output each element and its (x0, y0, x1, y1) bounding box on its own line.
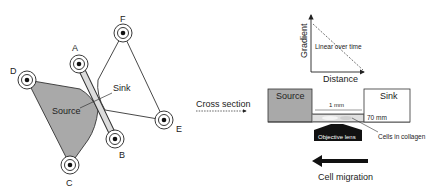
width-label: 1 mm (329, 102, 344, 108)
electrode-C (61, 156, 79, 174)
electrode-A (70, 55, 88, 73)
electrode-label-F: F (120, 14, 126, 24)
electrode-B (106, 130, 124, 148)
depth-label: 70 mm (367, 114, 387, 121)
x-axis-label: Distance (323, 74, 358, 84)
cell-migration-label: Cell migration (318, 172, 373, 182)
electrode-label-E: E (176, 124, 182, 134)
gradient-graph: Gradient Distance Linear over time (299, 15, 364, 84)
electrode-label-A: A (72, 43, 78, 53)
electrode-label-B: B (119, 150, 125, 160)
source-label: Source (52, 106, 81, 116)
cells-label: Cells in collagen (378, 133, 426, 141)
cell-migration-arrow (312, 155, 368, 167)
diagram-canvas: A B C D E F Source Sink Cross section Gr… (0, 0, 437, 188)
electrode-F (114, 24, 132, 42)
cross-section-label: Cross section (196, 99, 251, 109)
electrode-E (155, 111, 173, 129)
electrode-label-D: D (10, 66, 17, 76)
electrode-D (18, 71, 36, 89)
y-axis-label: Gradient (299, 23, 309, 58)
sink-label: Sink (113, 83, 131, 93)
sink-region (98, 33, 164, 120)
cs-sink-label: Sink (380, 91, 398, 101)
cs-source-label: Source (276, 91, 305, 101)
line-label: Linear over time (315, 43, 362, 50)
electrode-label-C: C (66, 178, 73, 188)
source-region (27, 80, 98, 165)
objective-lens-label: Objective lens (318, 134, 356, 140)
